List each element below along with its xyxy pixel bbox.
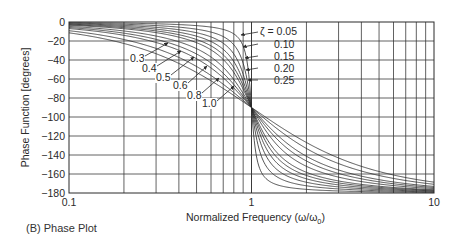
y-axis-label: Phase Function [degrees] (19, 48, 31, 168)
annotation-label-zeta-1: 1.0 (202, 97, 217, 109)
y-axis-ticks: 0−20−40−60−80−100−120−140−160−180 (41, 16, 65, 199)
y-tick-label: −120 (41, 130, 65, 142)
annotation-label-zeta-0-25: 0.25 (274, 74, 295, 86)
phase-plot-chart: ζ = 0.050.100.150.200.250.30.40.50.60.81… (0, 0, 464, 243)
y-tick-label: −80 (47, 92, 65, 104)
x-axis-label: Normalized Frequency (ω/ω0) (186, 211, 325, 226)
annotation-label-zeta-0-8: 0.8 (187, 89, 202, 101)
annotation-leader (241, 32, 258, 35)
y-tick-label: 0 (59, 16, 65, 28)
figure-caption: (B) Phase Plot (26, 222, 97, 234)
annotation-label-zeta-0-05: ζ = 0.05 (260, 25, 297, 37)
annotation-label-zeta-0-4: 0.4 (142, 62, 157, 74)
x-axis-ticks: 0.1110 (62, 196, 440, 208)
annotation-label-zeta-0-6: 0.6 (173, 79, 188, 91)
annotation-label-zeta-0-15: 0.15 (274, 50, 295, 62)
y-tick-label: −100 (41, 111, 65, 123)
y-tick-label: −140 (41, 149, 65, 161)
annotation-label-zeta-0-5: 0.5 (156, 71, 171, 83)
y-tick-label: −40 (47, 54, 65, 66)
annotation-leader (188, 66, 207, 83)
y-tick-label: −160 (41, 168, 65, 180)
x-tick-label: 1 (249, 196, 255, 208)
y-tick-label: −60 (47, 73, 65, 85)
annotation-label-zeta-0-1: 0.10 (274, 38, 295, 50)
annotation-label-zeta-0-2: 0.20 (274, 62, 295, 74)
y-tick-label: −20 (47, 35, 65, 47)
x-tick-label: 10 (428, 196, 440, 208)
x-tick-label: 0.1 (62, 196, 77, 208)
annotation-leader (243, 44, 258, 47)
